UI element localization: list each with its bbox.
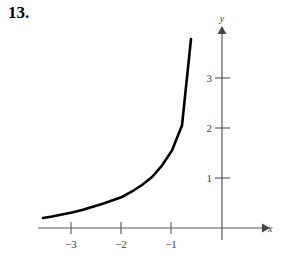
y-tick-label-1: 1 bbox=[207, 172, 213, 184]
x-tick-label-neg2: −2 bbox=[115, 238, 127, 250]
x-tick-label-neg3: −3 bbox=[65, 238, 77, 250]
x-axis-label: x bbox=[267, 223, 273, 234]
y-axis-label: y bbox=[219, 13, 225, 24]
x-tick-label-neg1: −1 bbox=[165, 238, 177, 250]
y-axis-arrow-icon bbox=[218, 26, 227, 34]
exponential-curve bbox=[43, 39, 191, 218]
y-tick-label-2: 2 bbox=[207, 122, 213, 134]
graph-figure: −3 −2 −1 1 2 3 x y bbox=[0, 0, 281, 269]
y-tick-label-3: 3 bbox=[207, 72, 213, 84]
figure-page: 13. −3 −2 −1 1 2 3 x y bbox=[0, 0, 281, 269]
